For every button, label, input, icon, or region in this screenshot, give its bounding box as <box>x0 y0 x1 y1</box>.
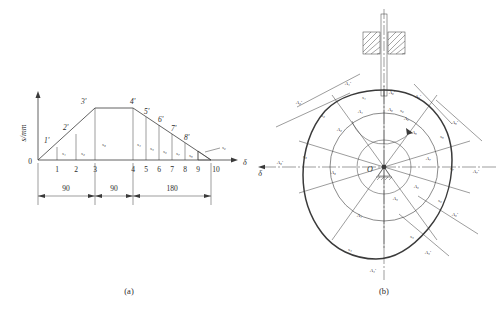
point-label-7: 7' <box>171 124 177 133</box>
inner-label-A8: A₈ <box>411 130 417 135</box>
x-tick-6: 6 <box>157 165 161 174</box>
outer-label-A6: A₆' <box>451 212 459 217</box>
outer-label-A0: A₀' <box>388 90 396 95</box>
point-label-6: 6' <box>158 115 164 124</box>
cam-label-s1: s₁ <box>362 95 366 100</box>
inner-label-A1: A₁ <box>357 109 363 114</box>
caption-b: (b) <box>379 286 389 296</box>
dimension-labels: 90 90 180 <box>62 184 178 193</box>
curve-point-labels: 1' 2' 3' 4' 5' 6' 7' 8' <box>44 97 190 145</box>
outer-label-A5: A₅' <box>424 250 432 255</box>
segment-label-s3: s₃ <box>102 142 106 147</box>
cam-label-s5: s₅ <box>410 234 414 239</box>
cam-label-s4: s₄ <box>348 247 352 252</box>
cam-displacement-labels: s₁ s₂ s₃ s₄ s₅ s₆ s₇ s₈ s₉ <box>303 95 454 252</box>
x-tick-7: 7 <box>170 165 174 174</box>
dimension-label-3: 180 <box>166 184 178 193</box>
cam-label-s2: s₂ <box>321 113 325 118</box>
outer-label-A9: A₉' <box>414 94 422 99</box>
x-tick-5: 5 <box>144 165 148 174</box>
inner-label-A6: A₆ <box>413 184 419 189</box>
x-tick-8: 8 <box>183 165 187 174</box>
segment-label-s9: s₉ <box>222 145 226 150</box>
displacement-diagram: s/mm δ 0 1' 2' <box>19 91 247 296</box>
s9-wedge <box>198 151 211 160</box>
segment-label-s8: s₈ <box>189 153 193 158</box>
point-label-4: 4' <box>130 97 136 106</box>
inner-label-A2: A₂ <box>336 127 342 132</box>
origin-label: 0 <box>28 157 32 166</box>
outer-label-A2: A₂' <box>295 100 303 105</box>
caption-a: (a) <box>124 286 134 296</box>
inner-label-A7: A₇ <box>425 156 431 161</box>
y-axis-label: s/mm <box>19 124 28 141</box>
segment-label-s4: s₄ <box>137 142 141 147</box>
dimension-label-1: 90 <box>62 184 70 193</box>
outer-label-A3: A₃' <box>276 160 284 165</box>
s9-leader <box>205 148 220 152</box>
x-axis-arrow <box>231 158 238 163</box>
cam-label-s8: s₈ <box>440 134 444 139</box>
x-tick-10: 10 <box>212 165 220 174</box>
point-label-1: 1' <box>44 136 50 145</box>
x-tick-1: 1 <box>55 165 59 174</box>
segment-label-s7: s₇ <box>176 151 180 156</box>
segment-labels: s₁ s₂ s₃ s₄ s₅ s₆ s₇ s₈ s₉ <box>62 142 226 158</box>
guide-block-right <box>388 32 405 54</box>
inner-label-A5: A₅ <box>392 196 398 201</box>
segment-label-s2: s₂ <box>81 151 85 156</box>
cam-label-s7: s₇ <box>450 166 454 171</box>
segment-label-s6: s₆ <box>163 149 167 154</box>
point-label-3: 3' <box>80 97 87 106</box>
follower-assembly <box>363 9 405 96</box>
point-label-2: 2' <box>63 123 69 132</box>
cam-label-s6: s₆ <box>438 198 442 203</box>
cam-diagram: δ <box>258 9 496 296</box>
cam-label-s9: s₉ <box>400 108 404 113</box>
outer-label-A8: A₈' <box>451 120 459 125</box>
inner-label-A0: A₀ <box>387 107 393 112</box>
cam-delta-label: δ <box>258 169 262 178</box>
inner-label-A3: A₃ <box>330 170 336 175</box>
outer-label-A4: A₄' <box>369 268 377 273</box>
technical-drawing: s/mm δ 0 1' 2' <box>0 0 502 318</box>
x-tick-9: 9 <box>196 165 200 174</box>
y-axis-arrow <box>36 91 41 98</box>
dimension-label-2: 90 <box>110 184 118 193</box>
rotation-arrow-icon <box>352 121 413 144</box>
segment-label-s1: s₁ <box>62 151 66 156</box>
guide-block-left <box>363 32 380 54</box>
cam-label-s3: s₃ <box>303 154 307 159</box>
cam-profile <box>303 90 452 259</box>
center-label: O <box>367 165 373 174</box>
x-tick-2: 2 <box>74 165 78 174</box>
inner-label-A4: A₄ <box>356 213 362 218</box>
point-label-5: 5' <box>144 107 150 116</box>
dimension-lines <box>38 194 211 198</box>
outer-label-A1: A₁' <box>344 81 352 86</box>
outer-label-A7: A₇' <box>472 169 480 174</box>
point-label-8: 8' <box>184 133 190 142</box>
y-axis <box>36 91 41 160</box>
x-axis-label: δ <box>243 158 247 167</box>
construction-tangents <box>276 74 482 256</box>
figure-container: s/mm δ 0 1' 2' <box>0 0 502 318</box>
x-tick-labels: 1 2 3 4 5 6 7 8 9 10 <box>55 165 220 174</box>
inner-label-A9: A₉ <box>403 116 409 121</box>
segment-label-s5: s₅ <box>150 146 154 151</box>
